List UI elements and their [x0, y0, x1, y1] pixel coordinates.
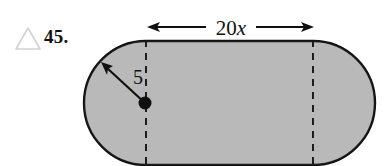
geometry-figure: 20x 5 [0, 0, 384, 166]
dimension-label-20x: 20x [216, 16, 247, 40]
center-dot-marker [139, 97, 152, 110]
dimension-variable: x [236, 16, 247, 40]
fill-texture [84, 41, 375, 165]
exercise-number: 45. [44, 27, 68, 46]
figure-page: 20x 5 45. [0, 0, 384, 166]
dimension-number: 20 [216, 16, 237, 40]
triangle-outline-icon [16, 28, 40, 49]
radius-label: 5 [133, 66, 143, 88]
